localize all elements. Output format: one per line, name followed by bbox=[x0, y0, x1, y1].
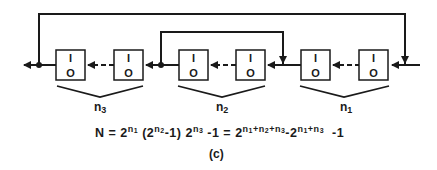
junction-dot bbox=[158, 62, 164, 68]
group-brace-n3 bbox=[57, 86, 143, 97]
cell-top-label: I bbox=[372, 52, 375, 64]
cell-bottom-label: O bbox=[246, 67, 255, 79]
group-brace-n2 bbox=[178, 86, 265, 97]
cell-top-label: I bbox=[249, 52, 252, 64]
cell-bottom-label: O bbox=[189, 67, 198, 79]
register-diagram: I O I O I O I O I O I O bbox=[0, 0, 437, 170]
group-label-n2: n2 bbox=[216, 100, 228, 115]
cell-bottom-label: O bbox=[124, 67, 133, 79]
figure-caption: (c) bbox=[209, 147, 224, 161]
group-label-n3: n3 bbox=[94, 100, 106, 115]
cell-bottom-label: O bbox=[311, 67, 320, 79]
junction-dot bbox=[36, 62, 42, 68]
outer-feedback-line bbox=[39, 14, 405, 65]
group-brace-n1 bbox=[300, 86, 389, 97]
diagram-canvas: I O I O I O I O I O I O n3 n2 n1 N = 2n1… bbox=[0, 0, 437, 170]
cell-top-label: I bbox=[192, 52, 195, 64]
cell-top-label: I bbox=[69, 52, 72, 64]
group-label-n1: n1 bbox=[340, 100, 352, 115]
cell-top-label: I bbox=[314, 52, 317, 64]
cell-bottom-label: O bbox=[66, 67, 75, 79]
cell-top-label: I bbox=[127, 52, 130, 64]
formula: N = 2n1 (2n2-1) 2n3 -1 = 2n1+n2+n3-2n1+n… bbox=[95, 124, 344, 140]
cell-bottom-label: O bbox=[369, 67, 378, 79]
